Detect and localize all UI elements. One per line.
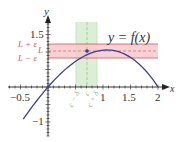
y-tick-label-neg1: −1 [32,115,44,127]
curve-label: y = f(x) [106,30,150,46]
x-tick-label-neg0.5: −0.5 [10,91,30,103]
epsilon-lower-label: L − ε [17,53,37,63]
limit-L-label: L [37,45,43,55]
epsilon-delta-diagram: y x y = f(x) 1.5 −1 −0.5 1 1.5 2 L + ε L… [0,0,178,142]
x-axis-label: x [169,83,175,94]
y-axis-label: y [43,5,49,17]
point-c-L [85,49,89,53]
x-tick-label-2: 2 [155,91,161,103]
x-axis-arrow-icon [162,84,170,90]
epsilon-upper-label: L + ε [17,39,37,49]
x-tick-label-1.5: 1.5 [122,91,136,103]
delta-left-label: c − δ [66,89,82,108]
y-axis [45,15,51,136]
x-tick-label-1: 1 [100,91,106,103]
